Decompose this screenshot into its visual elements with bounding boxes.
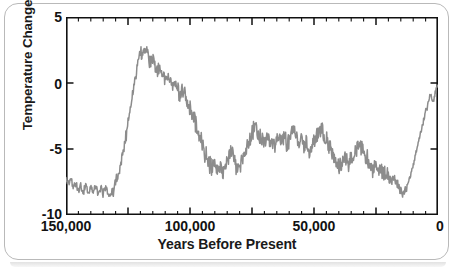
major-ticks <box>66 18 438 214</box>
x-tick-label-0: 0 <box>436 218 444 234</box>
minor-ticks <box>78 18 425 214</box>
y-tick-label-m5: -5 <box>28 142 62 156</box>
plot-area <box>66 17 438 215</box>
x-axis-title: Years Before Present <box>0 236 454 252</box>
y-tick-label-0: 0 <box>28 77 62 91</box>
y-tick-label-5: 5 <box>28 10 62 24</box>
figure-shadow <box>10 262 446 267</box>
x-tick-label-50000: 50,000 <box>293 218 336 234</box>
series-line-temperature <box>66 47 438 198</box>
temperature-line-chart <box>66 17 438 215</box>
x-tick-label-150000: 150,000 <box>41 218 92 234</box>
axis-lines <box>67 18 437 214</box>
figure-container: Temperature Change (°C) 5 0 -5 -10 150,0… <box>0 0 454 269</box>
x-tick-label-100000: 100,000 <box>165 218 216 234</box>
